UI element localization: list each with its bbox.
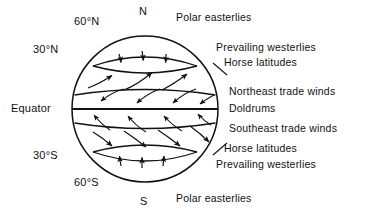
belt-label-horse-latitudes-north: Horse latitudes (224, 57, 297, 68)
latitude-label-30s: 30°S (33, 150, 58, 161)
belt-label-northeast-trade-winds: Northeast trade winds (229, 86, 335, 97)
pole-label-south: S (140, 196, 148, 207)
latitude-label-30n: 30°N (33, 44, 58, 55)
belt-label-prevailing-westerlies-north: Prevailing westerlies (216, 42, 316, 53)
globe-illustration (0, 0, 382, 216)
belt-label-southeast-trade-winds: Southeast trade winds (229, 123, 337, 134)
north-polar-cap-boundary (93, 57, 197, 66)
latitude-lines (72, 66, 218, 152)
latitude-label-60s: 60°S (74, 177, 99, 188)
pole-label-north: N (139, 6, 147, 17)
belt-label-prevailing-westerlies-south: Prevailing westerlies (216, 159, 316, 170)
arrows-polar-easterlies-north (119, 51, 166, 63)
belt-label-polar-easterlies-south: Polar easterlies (176, 193, 252, 204)
arrows-prevailing-westerlies-south (93, 126, 209, 147)
latitude-label-60n: 60°N (74, 16, 99, 27)
wind-belt-diagram: 60°N 30°N Equator 30°S 60°S N S Polar ea… (0, 0, 382, 216)
belt-label-doldrums: Doldrums (229, 103, 276, 114)
latitude-line-30n (75, 90, 216, 96)
arrows-prevailing-westerlies-north (88, 73, 187, 91)
arrows-northeast-trade-winds (101, 89, 214, 104)
latitude-line-30s (75, 123, 216, 129)
latitude-line-60n (93, 66, 197, 73)
latitude-label-equator: Equator (11, 103, 51, 114)
belt-label-polar-easterlies-north: Polar easterlies (176, 12, 252, 23)
arrows-polar-easterlies-south (120, 156, 165, 168)
belt-label-horse-latitudes-south: Horse latitudes (224, 143, 297, 154)
south-polar-cap-boundary (93, 152, 197, 161)
